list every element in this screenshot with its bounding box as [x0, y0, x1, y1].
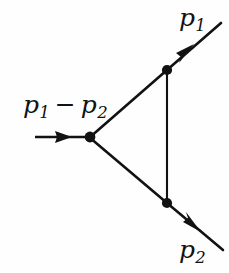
outgoing-upper-var: p	[179, 3, 195, 32]
left-vertex-dot	[85, 132, 96, 143]
outgoing-upper-sub: 1	[195, 16, 206, 35]
label-outgoing-upper-momentum: p1	[179, 5, 206, 34]
outgoing-lower-arrow-icon	[183, 212, 201, 232]
incoming-var1: p	[23, 90, 39, 119]
label-incoming-momentum: p1−p2	[23, 92, 108, 121]
top-vertex-dot	[162, 65, 172, 75]
incoming-sub1: 1	[39, 103, 50, 122]
bottom-vertex-dot	[162, 198, 172, 208]
outgoing-lower-sub: 2	[195, 248, 206, 267]
incoming-var2: p	[81, 90, 97, 119]
label-outgoing-lower-momentum: p2	[179, 237, 206, 266]
lower-loop-line	[89, 137, 167, 203]
incoming-operator: −	[55, 90, 76, 119]
incoming-arrow-icon	[55, 131, 72, 143]
incoming-sub2: 2	[97, 103, 108, 122]
outgoing-lower-var: p	[179, 235, 195, 264]
feynman-diagram-figure: p1−p2 p1 p2	[0, 0, 229, 273]
diagram-canvas	[0, 0, 229, 273]
